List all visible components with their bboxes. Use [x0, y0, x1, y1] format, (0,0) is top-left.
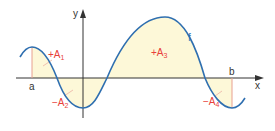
x-axis-label: x: [255, 80, 260, 91]
y-axis-arrow-icon: [80, 9, 86, 18]
function-label: f: [188, 32, 191, 43]
bound-label-b: b: [229, 66, 235, 77]
area-label-a1: +A1: [48, 49, 65, 61]
bound-label-a: a: [29, 81, 35, 92]
area-fill: [32, 17, 232, 108]
y-axis-label: y: [73, 8, 78, 19]
area-label-a2: −A2: [52, 97, 69, 109]
area-diagram: x y a b f +A1 −A2 +A3 −A4: [0, 0, 275, 131]
